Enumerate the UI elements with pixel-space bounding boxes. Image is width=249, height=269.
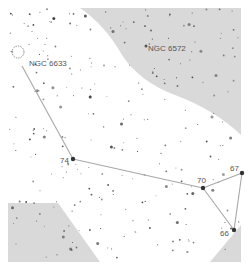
field-star [133,21,135,23]
field-star [79,230,80,231]
field-star [186,193,188,195]
field-star [120,25,121,26]
field-star [175,167,176,168]
field-star [213,95,215,97]
field-star [125,28,126,29]
field-star [39,12,40,13]
field-star [63,177,64,178]
field-star [71,73,72,74]
field-star [185,110,186,111]
field-star [105,11,106,12]
field-star [233,29,235,31]
field-star [227,210,229,212]
field-star [50,21,52,23]
field-star [74,204,76,206]
field-star [192,76,194,78]
field-star [84,14,87,17]
field-star [152,72,154,74]
field-star [157,244,158,245]
field-star [124,236,125,237]
field-star [188,239,189,240]
field-star [39,213,41,215]
field-star [15,244,16,245]
field-star [202,82,203,83]
field-star [56,201,57,202]
field-star [80,173,81,174]
field-star [55,46,57,48]
field-star [88,113,89,114]
field-star [144,119,145,120]
field-star [37,38,38,39]
field-star [46,256,47,257]
field-star [215,74,218,77]
field-star [142,201,144,203]
field-star [210,156,212,158]
field-star [172,250,174,252]
field-star [211,189,214,192]
field-star [90,89,91,90]
field-star [169,14,171,16]
field-star [46,8,48,10]
field-star [43,99,45,101]
field-star [124,42,126,44]
field-star [49,21,50,22]
field-star [88,188,90,190]
field-star [91,62,92,63]
field-star [53,206,54,207]
field-star [33,130,34,131]
field-star [135,231,136,232]
field-star [199,50,202,53]
field-star [88,167,89,168]
field-star [38,90,39,91]
field-star [91,66,92,67]
field-star [181,169,183,171]
field-star [228,91,229,92]
field-star [103,126,104,127]
field-star [179,239,181,241]
field-star [19,201,21,203]
field-star [220,145,221,146]
field-star [71,56,72,57]
star-chart: NGC 6633NGC 6572 74706766 [0,0,249,269]
field-star [110,27,111,28]
field-star [187,251,188,252]
field-star [43,50,44,51]
field-star [114,66,115,67]
field-star [62,166,63,167]
field-star [237,37,238,38]
field-star [193,242,195,244]
field-star [56,254,57,255]
field-star [11,206,14,209]
field-star [66,87,67,88]
field-star [191,192,194,195]
field-star [72,242,73,243]
field-star [132,220,133,221]
field-star [189,60,190,61]
field-star [193,25,195,27]
field-star [197,124,198,125]
field-star [180,141,181,142]
field-star [72,211,73,212]
field-star [69,23,71,25]
field-star [164,82,166,84]
star-label-70: 70 [197,176,206,185]
field-star [152,39,153,40]
field-star [77,169,78,170]
field-star [79,201,81,203]
field-star [10,13,12,15]
field-star [36,221,37,222]
field-star [69,13,70,14]
field-star [230,228,232,230]
field-star [33,202,35,204]
field-star [110,145,113,148]
field-star [47,55,48,56]
field-star [232,47,234,49]
field-star [145,9,146,10]
field-star [36,72,38,74]
field-star [147,119,148,120]
field-star [225,249,226,250]
field-star [123,119,124,120]
field-star [76,247,78,249]
field-star [120,123,123,126]
field-star [100,214,101,215]
